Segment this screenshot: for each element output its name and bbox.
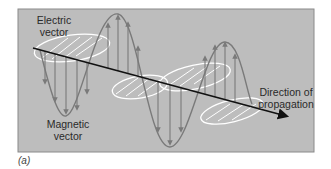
magnetic-vector-label: Magnetic vector [40,118,96,142]
electric-vector-label: Electric vector [26,14,82,38]
em-wave-figure: Electric vector Magnetic vector Directio… [0,0,331,169]
panel-label: (a) [18,155,30,166]
direction-of-propagation-label: Direction of propagation [256,86,316,110]
